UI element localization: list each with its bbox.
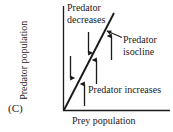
annotation-predator-isocline: Predator isocline (123, 34, 173, 57)
annotation-predator-increases: Predator increases (88, 85, 161, 96)
isocline-leader-line (107, 31, 122, 38)
y-axis-label: Predator population (19, 12, 30, 108)
x-axis-label: Prey population (72, 116, 136, 127)
down-arrow-group (71, 32, 89, 78)
annotation-predator-decreases: Predator decreases (67, 2, 119, 25)
predator-isocline-figure: (C) Predator decreases Predator isocline… (0, 0, 173, 132)
